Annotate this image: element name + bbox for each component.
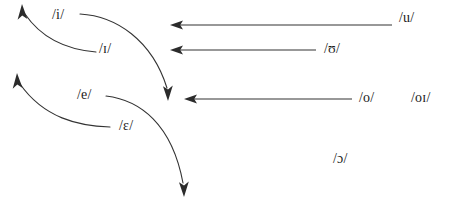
arrowhead-up-1 bbox=[18, 4, 28, 20]
vowel-shift-diagram: /i/ /ɪ/ /e/ /ɛ/ /u/ /ʊ/ /o/ /oɪ/ /ɔ/ bbox=[0, 0, 456, 206]
label-o: /o/ bbox=[359, 91, 374, 105]
arrow-o-to-left bbox=[184, 94, 352, 103]
label-u: /u/ bbox=[399, 11, 414, 25]
arrow-layer bbox=[0, 0, 456, 206]
label-open-o: /ɔ/ bbox=[333, 152, 348, 166]
label-upsilon: /ʊ/ bbox=[324, 42, 340, 56]
arrowhead-down-2 bbox=[179, 181, 189, 197]
label-epsilon: /ɛ/ bbox=[119, 119, 133, 133]
arrowhead-up-2 bbox=[13, 73, 23, 89]
arrow-u-to-left bbox=[170, 20, 392, 29]
label-i: /i/ bbox=[52, 8, 64, 22]
curve-i-to-down bbox=[80, 14, 173, 101]
curve-e-to-down bbox=[106, 96, 189, 197]
label-e: /e/ bbox=[77, 88, 92, 102]
label-oi: /oɪ/ bbox=[411, 91, 430, 105]
curve-epsilon-to-e-up bbox=[13, 73, 110, 127]
arrow-upsilon-to-left bbox=[170, 45, 316, 54]
arrowhead-down-1 bbox=[163, 86, 173, 101]
label-small-cap-i: /ɪ/ bbox=[99, 42, 111, 56]
